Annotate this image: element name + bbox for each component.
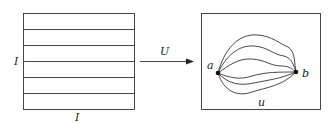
map-arrow: [140, 59, 194, 65]
unit-square: [24, 14, 135, 110]
point-b-label: b: [302, 67, 309, 80]
point-a-marker: [216, 71, 221, 76]
region-label: u: [258, 96, 265, 109]
left-side-label: I: [13, 55, 19, 68]
homotopy-paths: [218, 35, 296, 94]
point-a-label: a: [207, 59, 214, 72]
bottom-side-label: I: [74, 111, 80, 123]
point-b-marker: [294, 70, 299, 75]
map-label: U: [160, 45, 170, 58]
homotopy-diagram: I I U a b u: [0, 0, 331, 123]
